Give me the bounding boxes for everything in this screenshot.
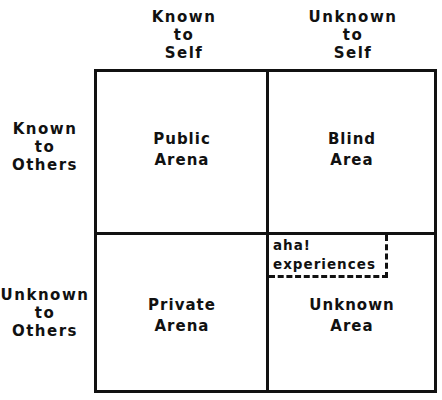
row-header-unknown-to-others: Unknown to Others xyxy=(0,286,90,340)
column-header-known-to-self: Known to Self xyxy=(114,8,254,62)
johari-window-grid: Public Arena Blind Area Private Arena Un… xyxy=(94,69,437,393)
aha-experiences-box: aha! experiences xyxy=(269,235,388,278)
cell-public-arena: Public Arena xyxy=(99,129,265,171)
cell-unknown-area: Unknown Area xyxy=(269,295,435,337)
cell-private-arena: Private Arena xyxy=(99,295,265,337)
cell-blind-area: Blind Area xyxy=(269,129,435,171)
row-header-known-to-others: Known to Others xyxy=(0,120,90,174)
column-header-unknown-to-self: Unknown to Self xyxy=(283,8,423,62)
aha-experiences-label: aha! experiences xyxy=(273,236,376,274)
vertical-divider xyxy=(266,72,269,390)
